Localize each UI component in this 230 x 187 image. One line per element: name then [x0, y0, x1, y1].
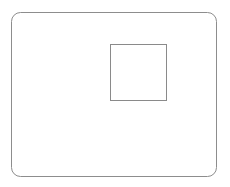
diagram-canvas — [0, 0, 230, 187]
inner-square — [111, 45, 167, 101]
diagram-svg — [0, 0, 230, 187]
